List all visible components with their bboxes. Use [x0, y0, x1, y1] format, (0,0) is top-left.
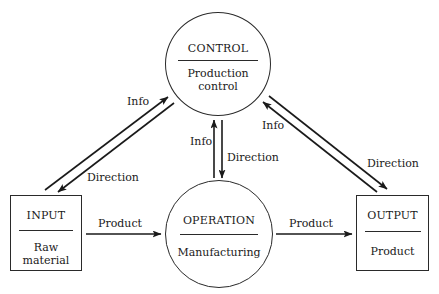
output-title: OUTPUT: [367, 209, 418, 222]
control-node: CONTROL Production control: [165, 12, 271, 116]
input-subtitle-line1: Raw: [34, 241, 59, 254]
control-title: CONTROL: [188, 42, 248, 55]
arrow-control-to-output-direction: [269, 96, 387, 189]
diagram-canvas: CONTROL Production control INPUT Raw mat…: [0, 0, 439, 294]
operation-title: OPERATION: [183, 214, 255, 227]
edge-label-output-direction: Direction: [367, 158, 419, 170]
control-subtitle-line1: Production: [187, 67, 248, 80]
input-title: INPUT: [27, 209, 66, 222]
edge-label-input-product: Product: [98, 218, 142, 230]
control-subtitle-line2: control: [198, 80, 238, 93]
operation-node: OPERATION Manufacturing: [165, 180, 273, 288]
edge-label-input-direction: Direction: [87, 172, 139, 184]
input-subtitle-line2: material: [23, 254, 70, 267]
output-divider: [365, 231, 421, 232]
output-subtitle: Product: [371, 245, 415, 258]
edge-label-output-product: Product: [289, 218, 333, 230]
edge-label-operation-info: Info: [190, 136, 212, 148]
control-divider: [178, 60, 258, 61]
input-divider: [19, 230, 73, 231]
input-node: INPUT Raw material: [10, 195, 82, 271]
operation-subtitle: Manufacturing: [177, 246, 260, 259]
output-node: OUTPUT Product: [356, 195, 429, 271]
operation-divider: [180, 234, 258, 235]
edge-label-input-info: Info: [127, 96, 149, 108]
edge-label-operation-direction: Direction: [227, 152, 279, 164]
edge-label-output-info: Info: [262, 120, 284, 132]
arrow-output-to-control-info: [263, 102, 377, 192]
